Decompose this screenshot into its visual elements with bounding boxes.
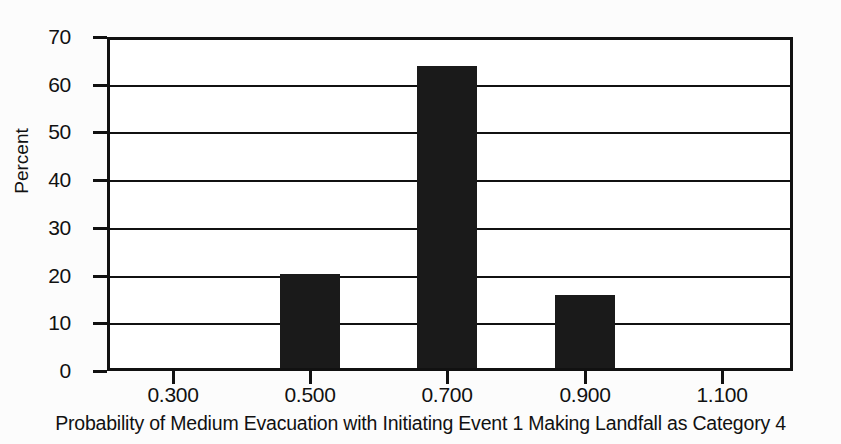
bar-0.500 xyxy=(280,274,340,368)
y-tick-label-0: 0 xyxy=(60,360,71,381)
x-tick-label-1.100: 1.100 xyxy=(696,384,747,406)
y-tick-label-30: 30 xyxy=(48,217,71,238)
histogram-figure: Percent 70 60 50 40 30 20 10 0 0. xyxy=(0,0,841,444)
y-tick-label-20: 20 xyxy=(48,265,71,286)
y-tick-mark-70 xyxy=(93,36,107,39)
plot-area xyxy=(107,37,793,371)
y-axis: 70 60 50 40 30 20 10 0 xyxy=(0,0,107,444)
y-tick-mark-0 xyxy=(93,370,107,373)
bar-0.900 xyxy=(555,295,615,368)
y-tick-mark-10 xyxy=(93,322,107,325)
y-tick-label-60: 60 xyxy=(48,74,71,95)
y-tick-label-10: 10 xyxy=(48,312,71,333)
x-tick-label-0.900: 0.900 xyxy=(559,384,610,406)
y-tick-mark-20 xyxy=(93,275,107,278)
bar-0.700 xyxy=(417,66,477,368)
y-tick-mark-50 xyxy=(93,131,107,134)
x-axis-title: Probability of Medium Evacuation with In… xyxy=(0,412,841,434)
y-tick-mark-30 xyxy=(93,227,107,230)
y-tick-mark-60 xyxy=(93,84,107,87)
x-tick-label-0.700: 0.700 xyxy=(421,384,472,406)
y-tick-label-40: 40 xyxy=(48,169,71,190)
y-tick-mark-40 xyxy=(93,179,107,182)
y-tick-label-70: 70 xyxy=(48,26,71,47)
y-tick-label-50: 50 xyxy=(48,121,71,142)
x-tick-label-0.500: 0.500 xyxy=(284,384,335,406)
x-tick-label-0.300: 0.300 xyxy=(147,384,198,406)
